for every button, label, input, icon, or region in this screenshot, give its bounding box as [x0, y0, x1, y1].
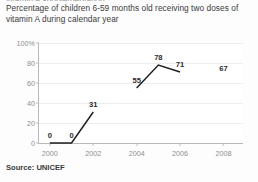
- point-label-2000: 0: [48, 131, 52, 140]
- y-tick-label-80: 80: [27, 59, 35, 68]
- y-tick-label-0: 0: [31, 139, 35, 148]
- chart-title: Percentage of children 6-59 months old r…: [6, 3, 252, 25]
- plot-wrapper: 100%806040200 20002002200420062008 00315…: [0, 40, 258, 156]
- point-label-2004: 55: [132, 76, 140, 85]
- x-tick-mark: [223, 143, 224, 146]
- x-tick-label-2006: 2006: [172, 149, 188, 158]
- x-tick-label-2004: 2004: [129, 149, 145, 158]
- x-tick-mark: [136, 143, 137, 146]
- x-tick-label-2002: 2002: [85, 149, 101, 158]
- y-tick-label-20: 20: [27, 119, 35, 128]
- point-label-2005: 78: [154, 53, 162, 62]
- chart-page: vitamin A supplementation Percentage of …: [0, 0, 258, 182]
- x-tick-mark: [93, 143, 94, 146]
- point-label-2002: 31: [89, 100, 97, 109]
- x-tick-label-2008: 2008: [215, 149, 231, 158]
- x-tick-mark: [180, 143, 181, 146]
- point-label-2008: 67: [219, 64, 227, 73]
- clipped-header-text: vitamin A supplementation: [6, 0, 105, 1]
- y-tick-label-100: 100%: [17, 39, 35, 48]
- plot-area: 100%806040200 20002002200420062008 00315…: [38, 43, 243, 144]
- y-tick-label-60: 60: [27, 79, 35, 88]
- point-label-2001: 0: [69, 131, 73, 140]
- point-label-2006: 71: [176, 60, 184, 69]
- y-tick-label-40: 40: [27, 99, 35, 108]
- series-line: [39, 43, 243, 143]
- x-tick-label-2000: 2000: [42, 149, 58, 158]
- series-segment-1: [137, 65, 180, 88]
- source-note: Source: UNICEF: [6, 163, 65, 172]
